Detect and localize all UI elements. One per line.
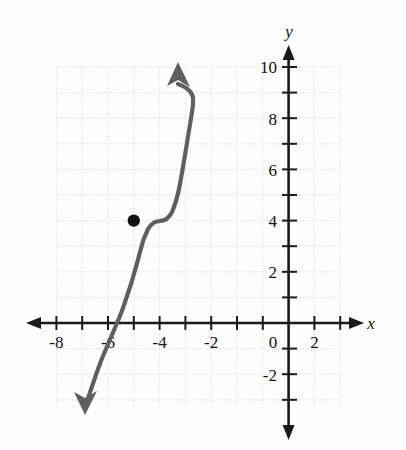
x-axis: [26, 317, 364, 329]
x-tick-labels: -8 -6 -4 -2 0 2: [49, 333, 318, 352]
x-axis-arrow-left: [26, 317, 41, 329]
x-axis-arrow-right: [349, 317, 364, 329]
y-tick-label: 6: [269, 161, 278, 180]
x-tick-label-origin: 0: [269, 333, 278, 352]
y-tick-label: 8: [269, 110, 278, 129]
x-tick-label: -4: [153, 333, 168, 352]
x-tick-label: 2: [310, 333, 319, 352]
curve-path: [87, 84, 194, 402]
x-tick-label: -2: [204, 333, 218, 352]
curve-arrow-down: [74, 391, 97, 415]
y-axis-arrow-up: [283, 45, 295, 60]
y-axis-label: y: [283, 22, 293, 41]
y-tick-label: 4: [269, 212, 278, 231]
y-axis: [283, 45, 295, 440]
y-tick-label: 10: [260, 58, 277, 77]
y-tick-label: -2: [263, 366, 277, 385]
x-tick-label: -8: [49, 333, 63, 352]
cartesian-plot: -8 -6 -4 -2 0 2 10 8 6 4 2 -2 x y: [0, 0, 406, 450]
inflection-point-marker: [128, 214, 140, 226]
x-axis-label: x: [366, 314, 375, 333]
y-axis-arrow-down: [283, 425, 295, 440]
grid-lines: [56, 67, 340, 407]
y-tick-label: 2: [269, 263, 278, 282]
graph-figure: -8 -6 -4 -2 0 2 10 8 6 4 2 -2 x y: [0, 0, 406, 450]
